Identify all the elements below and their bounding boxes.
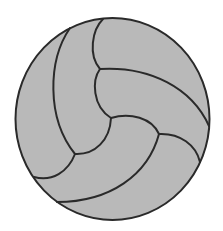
volleyball-icon (0, 0, 223, 231)
volleyball-illustration (0, 0, 223, 231)
